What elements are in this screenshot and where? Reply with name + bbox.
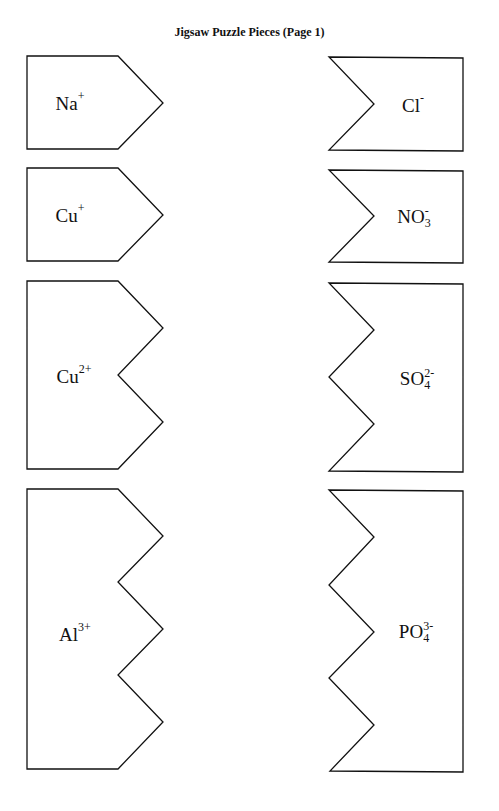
anion-piece-no3 bbox=[329, 170, 463, 263]
cation-piece-al bbox=[27, 489, 163, 769]
cation-label-cu2: Cu2+ bbox=[57, 367, 92, 386]
cation-label-na: Na+ bbox=[56, 94, 85, 113]
cation-label-al: Al3+ bbox=[59, 625, 91, 644]
anion-label-no3: NO-3 bbox=[397, 207, 430, 231]
anion-label-so4: SO2-4 bbox=[400, 369, 434, 393]
cation-label-cu1: Cu+ bbox=[56, 206, 85, 225]
anion-label-po4: PO3-4 bbox=[399, 622, 433, 646]
anion-piece-po4 bbox=[329, 490, 463, 772]
anion-piece-so4 bbox=[329, 283, 463, 472]
cation-piece-cu2 bbox=[27, 281, 163, 469]
anion-label-cl: Cl- bbox=[402, 96, 424, 115]
cation-piece-cu1 bbox=[27, 168, 163, 261]
anion-piece-cl bbox=[329, 57, 463, 151]
puzzle-pieces-drawing bbox=[0, 0, 499, 811]
cation-piece-na bbox=[27, 56, 163, 149]
